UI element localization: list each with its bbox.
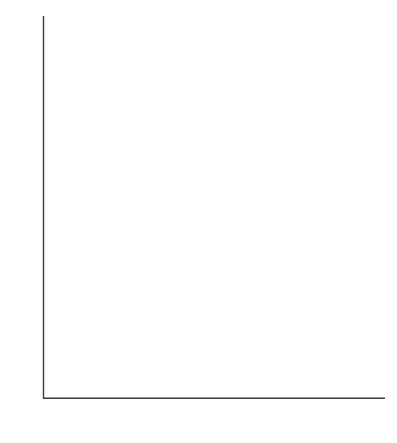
plot-area [0,0,397,443]
bar-chart [0,0,397,443]
axis-lines [43,16,385,399]
